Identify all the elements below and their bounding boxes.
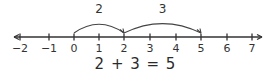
tick-label: 2 xyxy=(121,42,128,55)
tick-label: 3 xyxy=(147,42,154,55)
jump-label: 3 xyxy=(159,2,167,16)
tick-label: 5 xyxy=(198,42,205,55)
tick-label: 4 xyxy=(173,42,180,55)
tick-label: 1 xyxy=(96,42,103,55)
tick-label: 0 xyxy=(71,42,78,55)
equation: 2 + 3 = 5 xyxy=(0,55,271,73)
arrowhead-icon xyxy=(120,29,124,34)
jump-arc xyxy=(74,24,124,33)
tick-label: −2 xyxy=(12,42,28,55)
number-line xyxy=(14,35,262,40)
jump-arcs: 23 xyxy=(74,2,201,33)
tick-label: 6 xyxy=(224,42,231,55)
tick-label: 7 xyxy=(249,42,256,55)
tick-label: −1 xyxy=(41,42,57,55)
jump-label: 2 xyxy=(95,2,103,16)
jump-arc xyxy=(124,24,201,33)
